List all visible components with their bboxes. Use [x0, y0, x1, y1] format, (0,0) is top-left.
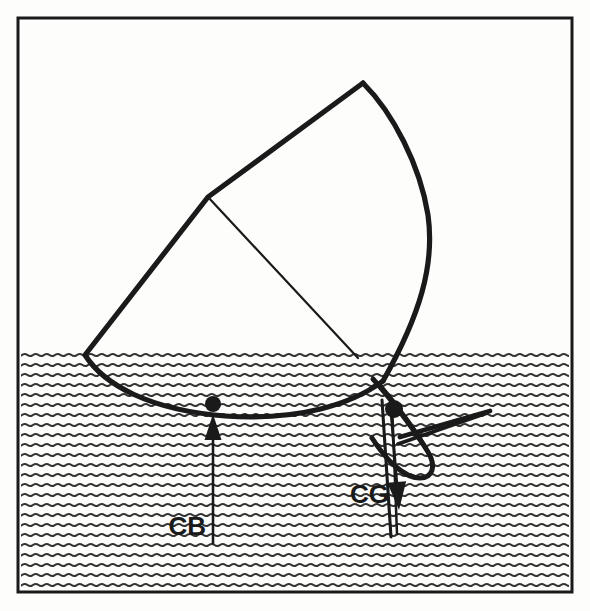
- cb-label: CB: [168, 511, 206, 541]
- water-hatching: [21, 352, 569, 589]
- cg-point-marker: [385, 400, 403, 418]
- cb-point-marker: [205, 396, 221, 412]
- cg-label: CG: [350, 479, 389, 509]
- figure-canvas: CB CG: [0, 0, 590, 611]
- water-region: [21, 352, 569, 589]
- stability-diagram-svg: CB CG: [0, 0, 590, 611]
